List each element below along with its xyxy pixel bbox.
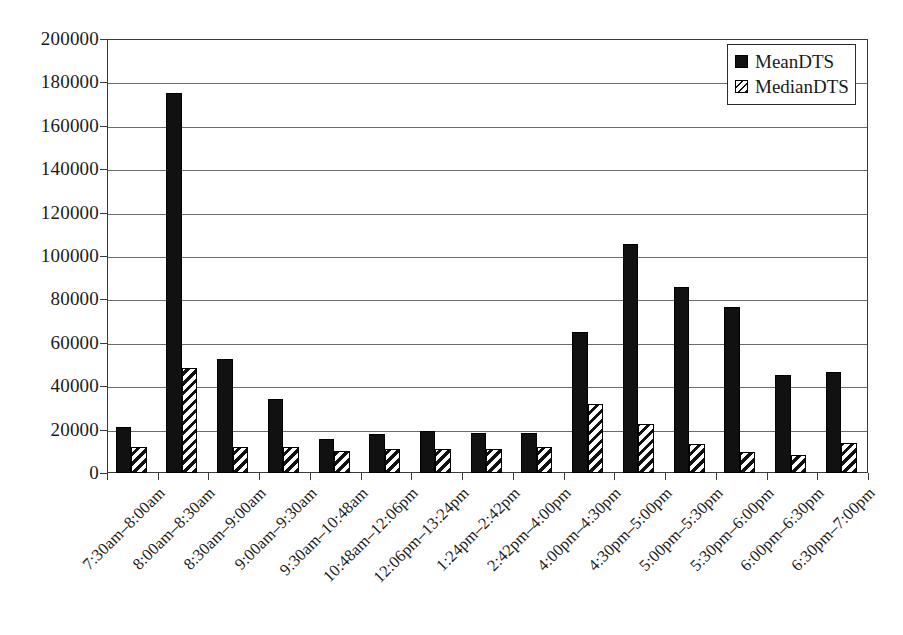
x-tick-mark (208, 473, 209, 480)
bar-median (334, 451, 349, 473)
x-tick-mark (462, 473, 463, 480)
bar-mean (217, 359, 232, 473)
x-tick-mark (259, 473, 260, 480)
y-tick-label: 0 (7, 463, 99, 482)
bar-median (131, 447, 146, 473)
x-tick-mark (310, 473, 311, 480)
legend-item-median: MedianDTS (735, 74, 848, 99)
y-tick-label: 100000 (7, 246, 99, 265)
bar-mean (420, 431, 435, 473)
bar-median (486, 449, 501, 473)
legend-swatch-median-icon (735, 80, 748, 93)
x-tick-mark (767, 473, 768, 480)
x-tick-mark (107, 473, 108, 480)
bar-mean (623, 244, 638, 473)
y-tick-label: 180000 (7, 72, 99, 91)
bar-mean (521, 433, 536, 473)
x-tick-mark (614, 473, 615, 480)
y-tick-mark (100, 169, 107, 170)
y-tick-label: 200000 (7, 29, 99, 48)
x-tick-mark (817, 473, 818, 480)
y-tick-mark (100, 343, 107, 344)
y-tick-label: 60000 (7, 333, 99, 352)
bar-mean (319, 439, 334, 473)
bar-median (435, 449, 450, 473)
y-tick-mark (100, 386, 107, 387)
y-tick-label: 20000 (7, 420, 99, 439)
bar-mean (116, 427, 131, 473)
x-tick-mark (513, 473, 514, 480)
bar-median (791, 455, 806, 473)
bar-median (588, 404, 603, 473)
bar-median (638, 424, 653, 473)
legend-item-mean: MeanDTS (735, 49, 848, 74)
y-tick-label: 40000 (7, 376, 99, 395)
bar-mean (471, 433, 486, 473)
legend-swatch-mean-icon (735, 55, 748, 68)
y-tick-mark (100, 39, 107, 40)
bar-median (537, 447, 552, 473)
y-tick-mark (100, 82, 107, 83)
bar-mean (826, 372, 841, 473)
bar-mean (572, 332, 587, 473)
bar-median (283, 447, 298, 473)
bar-median (385, 449, 400, 473)
y-tick-label: 160000 (7, 116, 99, 135)
bar-median (689, 444, 704, 473)
y-tick-mark (100, 213, 107, 214)
bar-mean (369, 434, 384, 473)
y-tick-mark (100, 430, 107, 431)
y-tick-mark (100, 299, 107, 300)
x-tick-mark (564, 473, 565, 480)
y-tick-mark (100, 473, 107, 474)
bar-median (740, 452, 755, 473)
y-tick-label: 140000 (7, 159, 99, 178)
bar-mean (724, 307, 739, 473)
legend-label-median: MedianDTS (755, 77, 849, 96)
y-tick-mark (100, 256, 107, 257)
bar-median (233, 447, 248, 473)
x-tick-mark (158, 473, 159, 480)
bar-mean (268, 399, 283, 473)
y-axis-labels: 0200004000060000800001000001200001400001… (0, 0, 99, 635)
chart-legend: MeanDTS MedianDTS (727, 44, 856, 105)
bar-median (841, 443, 856, 473)
x-tick-mark (716, 473, 717, 480)
legend-label-mean: MeanDTS (755, 52, 834, 71)
bar-mean (166, 93, 181, 473)
bar-median (182, 368, 197, 473)
bar-mean (775, 375, 790, 473)
y-tick-label: 80000 (7, 289, 99, 308)
x-axis-label: 9:30am–10:48am (276, 484, 371, 579)
y-tick-mark (100, 126, 107, 127)
x-tick-mark (665, 473, 666, 480)
x-tick-mark (411, 473, 412, 480)
x-tick-mark (868, 473, 869, 480)
bar-chart: 0200004000060000800001000001200001400001… (0, 0, 903, 635)
bar-mean (674, 287, 689, 473)
y-tick-label: 120000 (7, 203, 99, 222)
x-tick-mark (361, 473, 362, 480)
